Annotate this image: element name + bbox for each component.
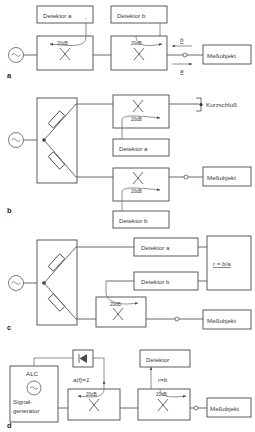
panel-b-reference-plane	[184, 175, 188, 179]
panel-a-letter: a	[7, 71, 12, 80]
panel-d-detector-label: Detektor	[146, 356, 169, 363]
reflectometer-diagram: a Detektor a Detektor b 20dB 20dB b	[0, 0, 255, 432]
panel-d-generator-line1: Signal-	[13, 398, 32, 405]
panel-b-coupler-top-label: 20dB	[131, 117, 142, 122]
panel-d-generator-line2: generator	[13, 407, 40, 414]
panel-b-detector-b-label: Detektor b	[119, 217, 148, 224]
panel-d: d ALC Signal- generator a(f)=1 20dB Dete…	[7, 350, 251, 430]
panel-d-load-label: Meßobjekt	[210, 405, 239, 412]
panel-a: a Detektor a Detektor b 20dB 20dB b	[7, 6, 251, 80]
panel-c-detector-b-label: Detektor b	[141, 278, 170, 285]
panel-b-letter: b	[7, 206, 12, 215]
panel-b-detector-a-label: Detektor a	[119, 145, 148, 152]
panel-d-level-annotation: a(f)=1	[73, 376, 89, 383]
panel-b-coupler-top	[113, 95, 169, 128]
panel-a-detector-b-label: Detektor b	[117, 12, 146, 19]
panel-c-reference-plane	[175, 317, 179, 321]
panel-c: c Detektor a Detektor b r = b/a 20dB Meß…	[7, 236, 251, 332]
panel-b-load-label: Meßobjekt	[207, 174, 236, 181]
panel-d-reflection-annotation: r=b	[158, 376, 168, 383]
panel-b-short-dot	[199, 103, 202, 106]
panel-a-wave-b-label: b	[180, 36, 184, 43]
panel-a-reference-plane	[183, 53, 187, 57]
panel-b-coupler-bottom-label: 20dB	[131, 189, 142, 194]
panel-d-generator-title: ALC	[26, 370, 39, 377]
panel-b-coupler-bottom	[113, 168, 169, 201]
panel-b-short-label: Kurzschluß	[206, 101, 237, 108]
panel-c-load-label: Meßobjekt	[207, 317, 236, 324]
panel-c-letter: c	[7, 323, 11, 332]
panel-c-detector-a-label: Detektor a	[141, 244, 170, 251]
panel-d-coupler-left-label: 20dB	[86, 392, 97, 397]
panel-a-wave-a-label: a	[180, 67, 184, 74]
panel-c-processor-label: r = b/a	[213, 260, 231, 267]
panel-a-load-label: Meßobjekt	[207, 52, 236, 59]
figure-canvas: a Detektor a Detektor b 20dB 20dB b	[0, 0, 255, 432]
panel-d-reference-plane	[194, 406, 198, 410]
panel-b: b 20dB Kurzschluß Detektor a 20dB	[7, 95, 251, 228]
panel-a-detector-a-label: Detektor a	[43, 12, 72, 19]
panel-c-coupler-box	[96, 297, 146, 327]
